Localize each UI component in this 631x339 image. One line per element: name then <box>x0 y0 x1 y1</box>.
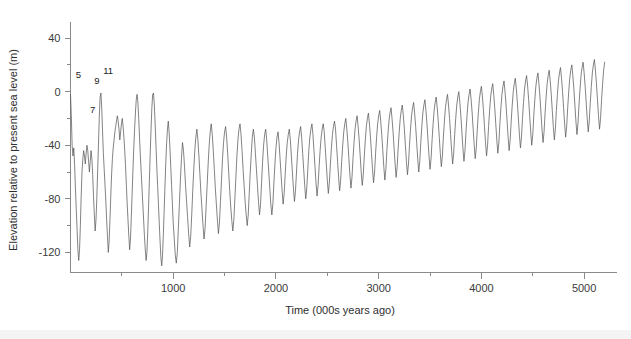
stage-label-11: 11 <box>103 65 113 76</box>
footer-band <box>0 330 631 339</box>
x-tick-label: 3000 <box>366 282 390 294</box>
y-tick-label: 40 <box>48 32 60 44</box>
x-axis-title: Time (000s years ago) <box>285 304 395 316</box>
stage-label-5: 5 <box>76 69 81 80</box>
x-tick-label: 5000 <box>572 282 596 294</box>
x-tick-label: 2000 <box>264 282 288 294</box>
chart-canvas: 400-40-80-120 10002000300040005000 57911… <box>0 0 631 339</box>
y-tick-label: -40 <box>45 139 61 151</box>
stage-label-9: 9 <box>94 75 99 86</box>
stage-label-7: 7 <box>90 104 95 115</box>
sea-level-chart-figure: 400-40-80-120 10002000300040005000 57911… <box>0 0 631 339</box>
y-tick-label: -120 <box>38 246 60 258</box>
x-tick-label: 4000 <box>469 282 493 294</box>
x-tick-label: 1000 <box>161 282 185 294</box>
y-tick-label: 0 <box>54 86 60 98</box>
y-tick-label: -80 <box>45 193 61 205</box>
y-axis-title: Elevation relative to present sea level … <box>7 49 19 251</box>
